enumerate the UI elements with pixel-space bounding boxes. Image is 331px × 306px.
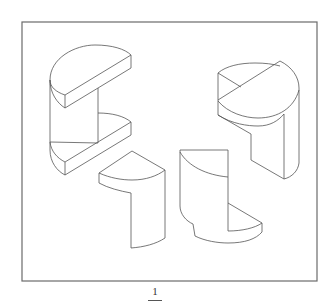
piece-a <box>50 45 131 175</box>
frame-border <box>22 22 317 281</box>
figure-label: 1 <box>145 285 165 297</box>
figure-label-underline <box>148 300 162 301</box>
piece-d <box>180 150 262 243</box>
piece-b <box>218 61 299 179</box>
figure: 1 <box>0 0 331 306</box>
diagram-canvas <box>0 0 331 306</box>
piece-c <box>99 151 165 248</box>
